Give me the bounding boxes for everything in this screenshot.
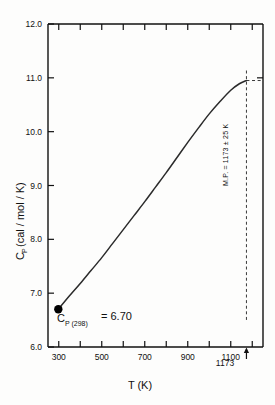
figure-container: 6.07.08.09.010.011.012.0 300500700900110… — [0, 0, 275, 405]
y-tick-label: 8.0 — [30, 234, 42, 244]
cp-298-subscript: P (298) — [65, 320, 88, 328]
y-tick-label: 7.0 — [30, 288, 42, 298]
x-tick-label: 300 — [52, 352, 66, 362]
cp-vs-temperature-chart: 6.07.08.09.010.011.012.0 300500700900110… — [0, 0, 275, 405]
y-tick-label: 6.0 — [30, 342, 42, 352]
y-tick-label: 12.0 — [25, 19, 42, 29]
y-axis-title-units: (cal / mol / K) — [14, 182, 26, 247]
x-tick-label: 500 — [95, 352, 109, 362]
melting-point-label: M.P. = 1173 ± 25 K — [222, 124, 229, 186]
x-tick-label: 900 — [181, 352, 195, 362]
cp-298-value: = 6.70 — [101, 310, 132, 322]
cp-298-symbol: C — [57, 312, 65, 324]
x-axis-title: T (K) — [128, 379, 152, 391]
melting-point-tick-label: 1173 — [216, 358, 235, 368]
y-tick-label: 10.0 — [25, 127, 42, 137]
y-axis-title-subscript: P — [21, 248, 28, 253]
y-tick-label: 9.0 — [30, 181, 42, 191]
x-tick-label: 700 — [138, 352, 152, 362]
y-tick-label: 11.0 — [26, 73, 42, 83]
